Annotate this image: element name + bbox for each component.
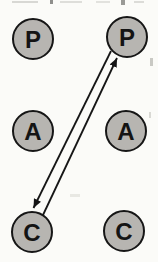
node-right-adult: A [105,110,147,152]
ego-state-transaction-diagram: P P A A C C [0,0,158,262]
node-label: A [117,120,134,144]
text-smudge [96,1,110,3]
node-label: A [24,120,41,144]
text-smudge [50,0,53,4]
text-smudge [121,0,125,5]
text-smudge [134,1,144,3]
scan-speck [70,194,80,197]
node-label: P [25,28,41,52]
node-label: P [119,26,135,50]
node-label: C [23,221,40,245]
scan-speck [150,58,153,66]
scan-speck [149,112,151,118]
node-left-child: C [11,211,53,253]
node-left-parent: P [12,18,54,60]
text-smudge [12,1,38,3]
node-right-child: C [103,210,145,252]
node-right-parent: P [106,16,148,58]
text-smudge [60,1,82,3]
node-label: C [115,220,132,244]
node-left-adult: A [12,110,54,152]
